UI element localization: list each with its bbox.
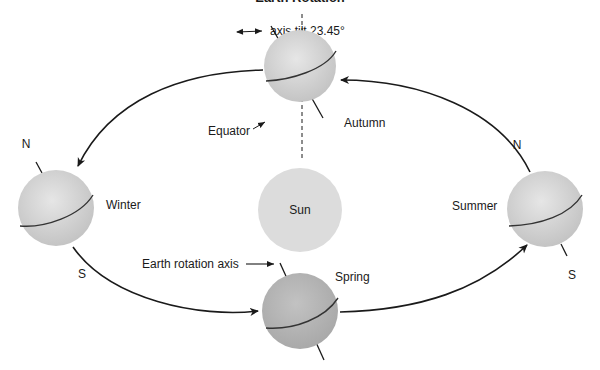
north-label: N	[22, 137, 31, 151]
season-label-autumn: Autumn	[344, 116, 385, 130]
globe-circle	[18, 170, 94, 246]
season-label-summer: Summer	[452, 199, 497, 213]
sun-label: Sun	[289, 203, 310, 217]
season-label-spring: Spring	[335, 270, 370, 284]
globe-winter: N Winter S	[18, 137, 141, 281]
globe-autumn: Autumn	[264, 26, 385, 130]
axis-tilt-arrow	[237, 31, 262, 32]
south-label: S	[568, 268, 576, 282]
orbit-arc-autumn-to-winter	[78, 70, 263, 166]
north-label: N	[513, 138, 522, 152]
north-pole-stub	[36, 162, 42, 173]
globe-summer: N Summer S	[452, 138, 583, 282]
sun: Sun	[258, 168, 342, 252]
season-label-winter: Winter	[106, 198, 141, 212]
globe-circle	[264, 30, 336, 102]
equator-label: Equator	[208, 124, 250, 138]
earth-orbit-diagram: Earth Rotation axis tilt 23.45° Sun Autu…	[0, 0, 600, 370]
diagram-title: Earth Rotation	[255, 0, 345, 5]
south-label: S	[78, 267, 86, 281]
south-pole-stub	[561, 244, 567, 256]
earth-rotation-axis-label: Earth rotation axis	[142, 257, 239, 271]
equator-pointer-arrow	[253, 122, 265, 129]
globe-circle	[507, 171, 583, 247]
